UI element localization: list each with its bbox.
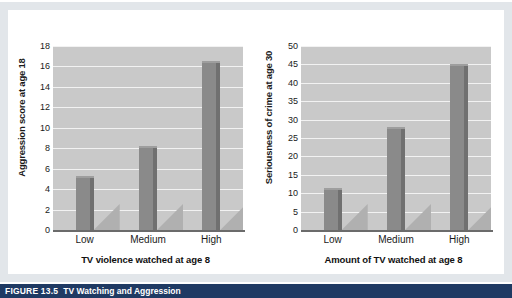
y-axis-title-left-text: Aggression score at age 18 <box>16 58 27 176</box>
gridline <box>53 46 243 47</box>
x-category-label: Low <box>75 234 93 245</box>
x-category-label: Medium <box>130 234 166 245</box>
bar-top-face <box>324 188 342 190</box>
y-tick-label: 5 <box>293 207 298 216</box>
bar-top-face <box>76 176 94 178</box>
figure-container: Aggression score at age 18 0246810121416… <box>0 0 512 298</box>
y-tick-label: 10 <box>40 123 50 132</box>
x-axis-line-left <box>53 230 245 232</box>
bar <box>387 127 405 230</box>
y-tick-label: 6 <box>45 164 50 173</box>
bar-side-face <box>216 63 220 230</box>
plot-area-left <box>53 46 243 230</box>
y-tick-label: 45 <box>288 60 298 69</box>
y-tick-label: 12 <box>40 103 50 112</box>
x-axis-line-right <box>301 230 493 232</box>
bar-side-face <box>338 190 342 230</box>
bar-top-face <box>139 146 157 148</box>
y-tick-label: 18 <box>40 42 50 51</box>
bar-shadow <box>157 204 183 230</box>
bar-front-face <box>387 127 401 230</box>
x-axis-title-right: Amount of TV watched at age 8 <box>286 254 501 265</box>
y-tick-label: 15 <box>288 170 298 179</box>
bar-shadow <box>220 204 243 230</box>
bar <box>202 61 220 230</box>
x-category-label: Medium <box>378 234 414 245</box>
bar-front-face <box>450 64 464 230</box>
caption-title: TV Watching and Aggression <box>63 286 180 296</box>
bar <box>76 176 94 230</box>
y-axis-ticks-left: 024681012141618 <box>28 46 50 230</box>
y-tick-label: 25 <box>288 134 298 143</box>
plot-area-right <box>301 46 491 230</box>
bar-front-face <box>202 61 216 230</box>
bar-top-face <box>450 64 468 66</box>
chart-crime: Seriousness of crime at age 30 051015202… <box>256 10 504 274</box>
x-category-label: High <box>201 234 222 245</box>
bar-side-face <box>153 148 157 230</box>
y-axis-ticks-right: 05101520253035404550 <box>276 46 298 230</box>
x-axis-categories-right: LowMediumHigh <box>301 234 491 250</box>
bar-side-face <box>90 178 94 230</box>
bar-shadow <box>468 204 491 230</box>
charts-row: Aggression score at age 18 0246810121416… <box>8 10 504 274</box>
bar-shadow <box>405 204 431 230</box>
bar-shadow <box>94 204 120 230</box>
bar-front-face <box>324 188 338 230</box>
bar-top-face <box>387 127 405 129</box>
y-tick-label: 50 <box>288 42 298 51</box>
x-category-label: High <box>449 234 470 245</box>
y-tick-label: 2 <box>45 205 50 214</box>
y-tick-label: 30 <box>288 115 298 124</box>
caption-number: FIGURE 13.5 <box>5 286 58 296</box>
y-tick-label: 0 <box>45 226 50 235</box>
x-category-label: Low <box>323 234 341 245</box>
bar-side-face <box>401 129 405 230</box>
y-tick-label: 16 <box>40 62 50 71</box>
x-axis-categories-left: LowMediumHigh <box>53 234 243 250</box>
y-tick-label: 40 <box>288 78 298 87</box>
bar-front-face <box>76 176 90 230</box>
bar <box>324 188 342 230</box>
figure-caption: FIGURE 13.5TV Watching and Aggression <box>0 284 512 298</box>
y-tick-label: 10 <box>288 189 298 198</box>
y-axis-title-right-text: Seriousness of crime at age 30 <box>264 51 275 184</box>
bar <box>450 64 468 230</box>
y-tick-label: 35 <box>288 97 298 106</box>
y-tick-label: 0 <box>293 226 298 235</box>
y-tick-label: 14 <box>40 82 50 91</box>
bar <box>139 146 157 230</box>
chart-aggression: Aggression score at age 18 0246810121416… <box>8 10 256 274</box>
y-tick-label: 4 <box>45 185 50 194</box>
bar-shadow <box>342 204 368 230</box>
gridline <box>301 46 491 47</box>
x-axis-title-left: TV violence watched at age 8 <box>38 254 253 265</box>
bar-front-face <box>139 146 153 230</box>
bar-side-face <box>464 66 468 230</box>
bar-top-face <box>202 61 220 63</box>
y-tick-label: 8 <box>45 144 50 153</box>
y-tick-label: 20 <box>288 152 298 161</box>
